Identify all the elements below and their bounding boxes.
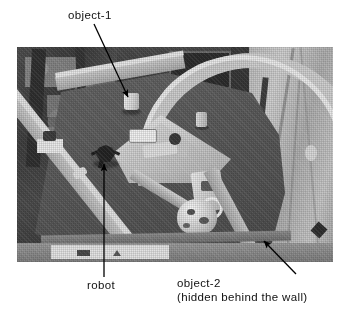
label-object-1: object-1: [68, 9, 112, 22]
label-object-2-sublabel: (hidden behind the wall): [177, 291, 308, 304]
photo-content: [17, 47, 333, 262]
figure-container: object-1 robot object-2 (hidden behind t…: [0, 0, 349, 319]
label-robot: robot: [87, 279, 115, 292]
halftone-grain-overlay-diagonal: [17, 47, 333, 262]
label-object-2: object-2: [177, 277, 221, 290]
arena-photograph: [17, 47, 333, 262]
